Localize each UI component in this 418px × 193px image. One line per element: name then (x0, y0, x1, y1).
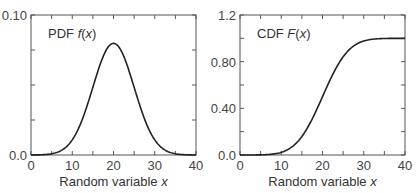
y-tick-label: 0.80 (211, 55, 236, 70)
x-tick-label: 30 (357, 158, 371, 173)
x-tick-label: 20 (315, 158, 329, 173)
panel-label: PDF f(x) (48, 26, 96, 41)
y-tick-label: 0.0 (9, 148, 27, 163)
x-axis-label: Random variable x (268, 174, 377, 189)
x-tick-label: 30 (148, 158, 162, 173)
y-tick-label: 0.40 (211, 101, 236, 116)
cdf-curve (240, 38, 405, 155)
x-tick-label: 10 (274, 158, 288, 173)
panel-label: CDF F(x) (257, 26, 310, 41)
x-tick-label: 0 (236, 158, 243, 173)
chart-canvas: 0102030400.00.10PDF f(x)Random variable … (0, 0, 418, 193)
y-tick-label: 0.10 (2, 8, 27, 23)
x-tick-label: 10 (65, 158, 79, 173)
y-tick-label: 1.2 (218, 8, 236, 23)
x-axis-label: Random variable x (59, 174, 168, 189)
pdf-panel: 0102030400.00.10PDF f(x)Random variable … (2, 8, 204, 189)
x-tick-label: 40 (398, 158, 412, 173)
pdf-curve (31, 43, 196, 155)
x-tick-label: 20 (106, 158, 120, 173)
x-tick-label: 0 (27, 158, 34, 173)
cdf-panel: 0102030400.00.400.801.2CDF F(x)Random va… (211, 8, 413, 189)
x-tick-label: 40 (189, 158, 203, 173)
y-tick-label: 0.0 (218, 148, 236, 163)
